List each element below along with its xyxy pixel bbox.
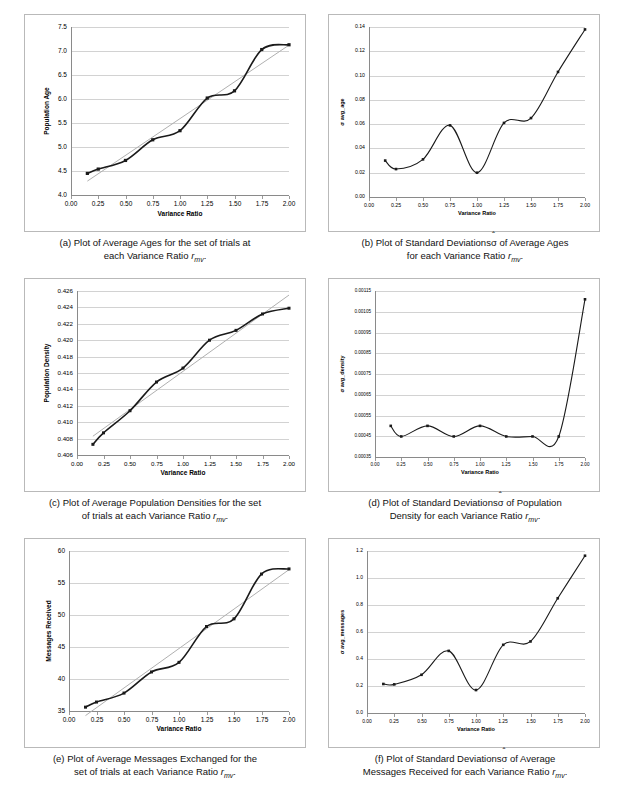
x-tick-label: 0.75 <box>138 200 168 207</box>
x-tick-label: 1.75 <box>543 718 573 724</box>
x-tick-mark <box>235 196 236 199</box>
y-tick-label: 0.04 <box>343 144 365 150</box>
data-curve <box>87 45 289 174</box>
y-tick-label: 0.00035 <box>343 454 371 459</box>
x-tick-label: 0.25 <box>83 200 113 207</box>
x-axis-title: Variance Ratio <box>375 469 585 475</box>
y-tick-label: 0.424 <box>47 303 73 310</box>
chart-f: 0.00.20.40.60.81.01.20.000.250.500.751.0… <box>328 538 600 748</box>
caption-f-line1-post: of Average <box>507 753 555 764</box>
data-point-marker <box>178 661 181 664</box>
data-point-marker <box>206 96 209 99</box>
x-tick-label: 0.75 <box>434 718 464 724</box>
x-tick-mark <box>77 456 78 459</box>
data-point-marker <box>261 312 264 315</box>
y-tick-label: 6.5 <box>47 71 67 78</box>
data-point-marker <box>420 673 423 676</box>
plot-area-e: 3540455055600.000.250.500.751.001.251.50… <box>69 551 289 711</box>
trendline <box>86 569 290 715</box>
x-tick-mark <box>531 198 532 201</box>
data-point-marker <box>476 171 479 174</box>
y-axis-title: Population Density <box>43 291 50 455</box>
y-tick-label: 0.00 <box>343 193 365 199</box>
caption-b-post: . <box>521 250 524 261</box>
x-tick-mark <box>480 458 481 461</box>
x-tick-label: 2.00 <box>570 718 600 724</box>
y-tick-label: 0.00095 <box>343 330 371 335</box>
data-point-marker <box>505 435 508 438</box>
data-point-marker <box>178 129 181 132</box>
data-point-marker <box>102 431 105 434</box>
x-tick-label: 0.75 <box>137 716 167 723</box>
x-tick-mark <box>262 196 263 199</box>
x-tick-label: 0.75 <box>435 202 465 208</box>
x-tick-label: 1.50 <box>220 200 250 207</box>
y-axis-title: σ avg_age <box>339 27 345 197</box>
x-tick-label: 0.50 <box>408 202 438 208</box>
x-tick-label: 1.50 <box>516 202 546 208</box>
data-point-marker <box>288 307 291 310</box>
y-tick-label: 0.4 <box>343 655 363 661</box>
data-point-marker <box>95 700 98 703</box>
data-point-marker <box>502 643 505 646</box>
x-tick-label: 1.75 <box>247 716 277 723</box>
series-line-d <box>375 291 585 457</box>
data-point-marker <box>422 158 425 161</box>
caption-b: (b) Plot of Standard Deviationsσ of Aver… <box>310 232 620 266</box>
plot-area-c: 0.4060.4080.4100.4120.4140.4160.4180.420… <box>77 291 289 455</box>
data-point-marker <box>86 172 89 175</box>
x-axis-title: Variance Ratio <box>77 469 289 476</box>
x-tick-mark <box>450 198 451 201</box>
plot-area-a: 4.04.55.05.56.06.57.07.50.000.250.500.75… <box>71 27 289 195</box>
x-tick-mark <box>97 712 98 715</box>
x-tick-mark <box>179 712 180 715</box>
y-tick-label: 0.06 <box>343 120 365 126</box>
data-curve <box>86 568 290 706</box>
y-tick-label: 0.420 <box>47 336 73 343</box>
y-tick-label: 0.12 <box>343 47 365 53</box>
data-curve <box>93 308 289 444</box>
x-tick-mark <box>585 198 586 201</box>
x-tick-label: 0.25 <box>82 716 112 723</box>
y-tick-label: 0.412 <box>47 402 73 409</box>
data-point-marker <box>150 670 153 673</box>
data-curve <box>391 299 585 446</box>
x-axis-title: Variance Ratio <box>71 210 289 217</box>
data-point-marker <box>503 122 506 125</box>
x-tick-mark <box>207 712 208 715</box>
x-tick-label: 1.25 <box>488 718 518 724</box>
y-tick-label: 0.14 <box>343 23 365 29</box>
caption-d-line1-pre: (d) Plot of Standard Deviations <box>368 497 497 508</box>
y-tick-label: 0.418 <box>47 353 73 360</box>
x-tick-mark <box>375 458 376 461</box>
x-tick-label: 1.25 <box>489 202 519 208</box>
x-tick-label: 1.25 <box>192 716 222 723</box>
x-tick-mark <box>531 714 532 717</box>
x-tick-mark <box>367 714 368 717</box>
x-tick-mark <box>236 456 237 459</box>
data-point-marker <box>235 329 238 332</box>
data-point-marker <box>97 167 100 170</box>
x-tick-label: 0.25 <box>379 718 409 724</box>
y-tick-label: 0.00075 <box>343 371 371 376</box>
caption-b-sub: mv <box>511 256 520 263</box>
x-tick-mark <box>126 196 127 199</box>
x-tick-mark <box>210 456 211 459</box>
chart-c: 0.4060.4080.4100.4120.4140.4160.4180.420… <box>24 278 306 492</box>
x-tick-label: 0.25 <box>381 202 411 208</box>
y-tick-label: 0.00055 <box>343 413 371 418</box>
data-point-marker <box>447 649 450 652</box>
y-tick-label: 0.414 <box>47 385 73 392</box>
plot-area-d: 0.000350.000450.000550.000650.000750.000… <box>375 291 585 457</box>
x-tick-mark <box>152 712 153 715</box>
x-tick-label: 1.75 <box>247 200 277 207</box>
data-point-marker <box>393 683 396 686</box>
caption-c-line2-pre: of trials at each Variance Ratio <box>82 510 213 521</box>
y-tick-label: 7.0 <box>47 47 67 54</box>
x-tick-mark <box>423 198 424 201</box>
data-curve <box>383 556 585 690</box>
panel-e: 3540455055600.000.250.500.751.001.251.50… <box>0 538 310 782</box>
caption-a-line2-pre: each Variance Ratio <box>104 250 192 261</box>
y-tick-label: 0.416 <box>47 369 73 376</box>
x-tick-label: 0.00 <box>62 460 92 467</box>
